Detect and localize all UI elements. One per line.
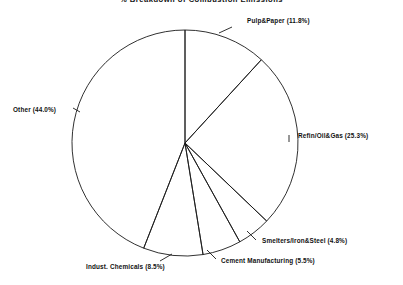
pie-chart-figure: % Breakdown of Combustion Emissions Pulp… xyxy=(0,0,403,285)
slice-label-3: Smelters/Iron&Steel (4.8%) xyxy=(262,237,347,245)
pie-chart-canvas: Pulp&Paper (11.8%)Refin/Oil&Gas (25.3%)S… xyxy=(0,0,403,285)
leader-line-4 xyxy=(207,250,216,259)
slice-label-6: Other (44.0%) xyxy=(13,106,56,114)
slice-label-4: Cement Manufacturing (5.5%) xyxy=(221,257,315,265)
leader-line-1 xyxy=(219,27,232,33)
pie-wedge-layer xyxy=(72,30,298,256)
slice-label-2: Refin/Oil&Gas (25.3%) xyxy=(298,132,368,140)
pie-slice-6[interactable] xyxy=(72,30,185,248)
pie-slice-4[interactable] xyxy=(185,143,240,255)
slice-label-layer: Pulp&Paper (11.8%)Refin/Oil&Gas (25.3%)S… xyxy=(13,17,368,271)
leader-line-5 xyxy=(160,254,172,261)
leader-line-layer xyxy=(73,27,289,261)
slice-label-5: Indust. Chemicals (8.5%) xyxy=(86,263,165,271)
pie-slice-1[interactable] xyxy=(185,30,261,143)
pie-slice-3[interactable] xyxy=(185,143,267,242)
slice-label-1: Pulp&Paper (11.8%) xyxy=(247,17,310,25)
